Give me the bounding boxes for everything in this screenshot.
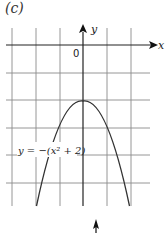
grid bbox=[6, 28, 150, 206]
x-axis bbox=[6, 41, 158, 49]
graph bbox=[0, 0, 167, 233]
y-axis bbox=[79, 24, 87, 206]
